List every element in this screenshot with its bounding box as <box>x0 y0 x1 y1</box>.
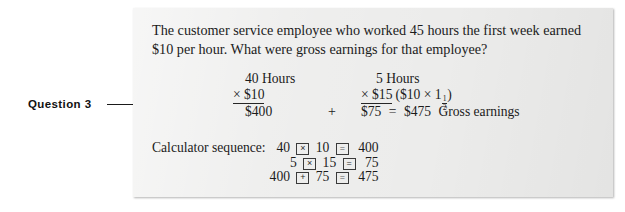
calculator-sequence-rows: 40 × 10 = 400 5 × 15 = 75 400 + 75 = 475 <box>264 141 379 185</box>
question-prompt-text: The customer service employee who worked… <box>152 21 596 59</box>
left-operand: × $10 <box>233 87 264 104</box>
gross-earnings-label: Gross earnings <box>438 104 519 119</box>
plus-key-icon: + <box>296 172 309 184</box>
right-operand-derivation: ($10 × 112) <box>395 87 451 102</box>
calc-result: 475 <box>358 170 378 185</box>
left-column-header: 40 Hours <box>245 71 295 86</box>
calc-operand-a: 5 <box>271 156 297 171</box>
calculator-row: 5 × 15 = 75 <box>264 156 379 171</box>
calc-operand-b: 10 <box>316 140 330 155</box>
columns-plus-connector: + <box>328 104 336 119</box>
calc-operand-b: 15 <box>323 155 337 170</box>
equals-sign: = <box>389 104 397 119</box>
derivation-prefix: ($10 × 1 <box>395 87 441 102</box>
multiply-key-icon: × <box>296 143 309 155</box>
calc-operand-a: 40 <box>264 141 290 156</box>
calc-result: 75 <box>365 156 379 171</box>
right-operand: × $15 <box>361 87 392 104</box>
equals-key-icon: = <box>336 172 349 184</box>
calculator-sequence-label: Calculator sequence: <box>152 141 266 156</box>
calc-operand-a: 400 <box>264 170 290 185</box>
equals-key-icon: = <box>336 143 349 155</box>
right-column-header: 5 Hours <box>376 71 419 86</box>
gross-earnings-total: $475 <box>404 104 431 119</box>
derivation-suffix: ) <box>447 87 452 102</box>
calculator-row: 400 + 75 = 475 <box>264 170 379 185</box>
left-result: $400 <box>245 104 272 119</box>
calculator-row: 40 × 10 = 400 <box>264 141 379 156</box>
right-result-line: $75 = $475 Gross earnings <box>361 104 520 119</box>
multiply-key-icon: × <box>303 158 316 170</box>
annotation-leader-line <box>107 104 135 105</box>
equals-key-icon: = <box>343 158 356 170</box>
calc-operand-b: 75 <box>316 169 330 184</box>
question-annotation-label: Question 3 <box>28 98 91 110</box>
calc-result: 400 <box>358 141 378 156</box>
textbook-excerpt-panel: The customer service employee who worked… <box>133 8 613 197</box>
right-result: $75 <box>361 104 381 119</box>
left-calculation-column: × $10 <box>233 87 264 104</box>
